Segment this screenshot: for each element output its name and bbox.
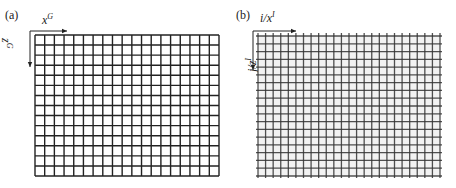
panel-a-x-arrow-icon-head bbox=[62, 29, 67, 33]
panel-b-z-arrow-icon-head bbox=[251, 65, 255, 70]
grid-diagram bbox=[0, 0, 456, 188]
panel-a-z-arrow-icon-head bbox=[28, 62, 32, 67]
panel-b-x-arrow-icon-head bbox=[291, 29, 296, 33]
